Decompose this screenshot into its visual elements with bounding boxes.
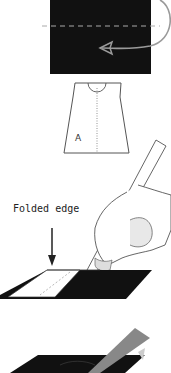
pattern-piece-a	[64, 83, 129, 153]
pattern-outline	[64, 83, 129, 153]
sewing-diagram: Folded edge A	[0, 0, 171, 373]
fold-fabric-step	[42, 0, 170, 74]
cutting-step	[10, 328, 150, 373]
marking-step	[0, 140, 171, 299]
fabric-square	[50, 0, 151, 74]
fabric-to-cut	[10, 355, 145, 373]
pattern-letter: A	[75, 133, 81, 143]
folded-edge-label: Folded edge	[13, 203, 79, 214]
